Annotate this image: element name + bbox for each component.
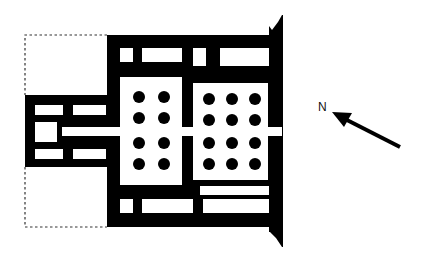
north-label: N: [318, 100, 327, 114]
floor-plan: [0, 0, 424, 258]
north-arrow-icon: [332, 112, 400, 147]
